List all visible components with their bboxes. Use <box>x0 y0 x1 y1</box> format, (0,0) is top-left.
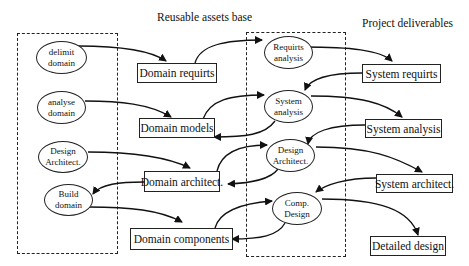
deliverable-system-requirements: System requirts <box>362 64 441 83</box>
label: domain <box>48 108 75 119</box>
asset-domain-architecture: Domain architect. <box>144 171 220 192</box>
label: delimit <box>49 47 75 58</box>
label: analysis <box>274 107 303 118</box>
label: Comp. <box>285 198 309 209</box>
process-analyse-domain: analyse domain <box>37 91 86 124</box>
deliverable-detailed-design: Detailed design <box>370 236 446 256</box>
process-build-domain: Build domain <box>44 184 93 216</box>
label: Architect. <box>273 156 309 167</box>
label: System <box>275 96 302 107</box>
label: Requirts <box>273 42 304 53</box>
process-component-design: Comp. Design <box>272 192 322 225</box>
process-delimit-domain: delimit domain <box>36 41 87 74</box>
label: domain <box>48 58 75 69</box>
label: analyse <box>48 97 75 108</box>
label: Design <box>50 146 76 157</box>
asset-domain-components: Domain components <box>130 228 233 250</box>
process-domain-design-architecture: Design Architect. <box>38 141 88 173</box>
process-system-analysis: System analysis <box>264 90 313 123</box>
label: domain <box>55 200 82 211</box>
label: Build <box>58 189 78 200</box>
label: Design <box>278 145 304 156</box>
deliverable-system-architecture: System architect. <box>376 174 453 193</box>
process-design-architecture: Design Architect. <box>266 139 315 172</box>
label: Architect. <box>45 157 81 168</box>
process-requirements-analysis: Requirts analysis <box>264 36 313 69</box>
asset-domain-models: Domain models <box>139 118 215 138</box>
label: analysis <box>274 53 303 64</box>
asset-domain-requirements: Domain requirts <box>137 63 217 83</box>
deliverable-system-analysis: System analysis <box>365 119 442 138</box>
label: Design <box>284 209 310 220</box>
